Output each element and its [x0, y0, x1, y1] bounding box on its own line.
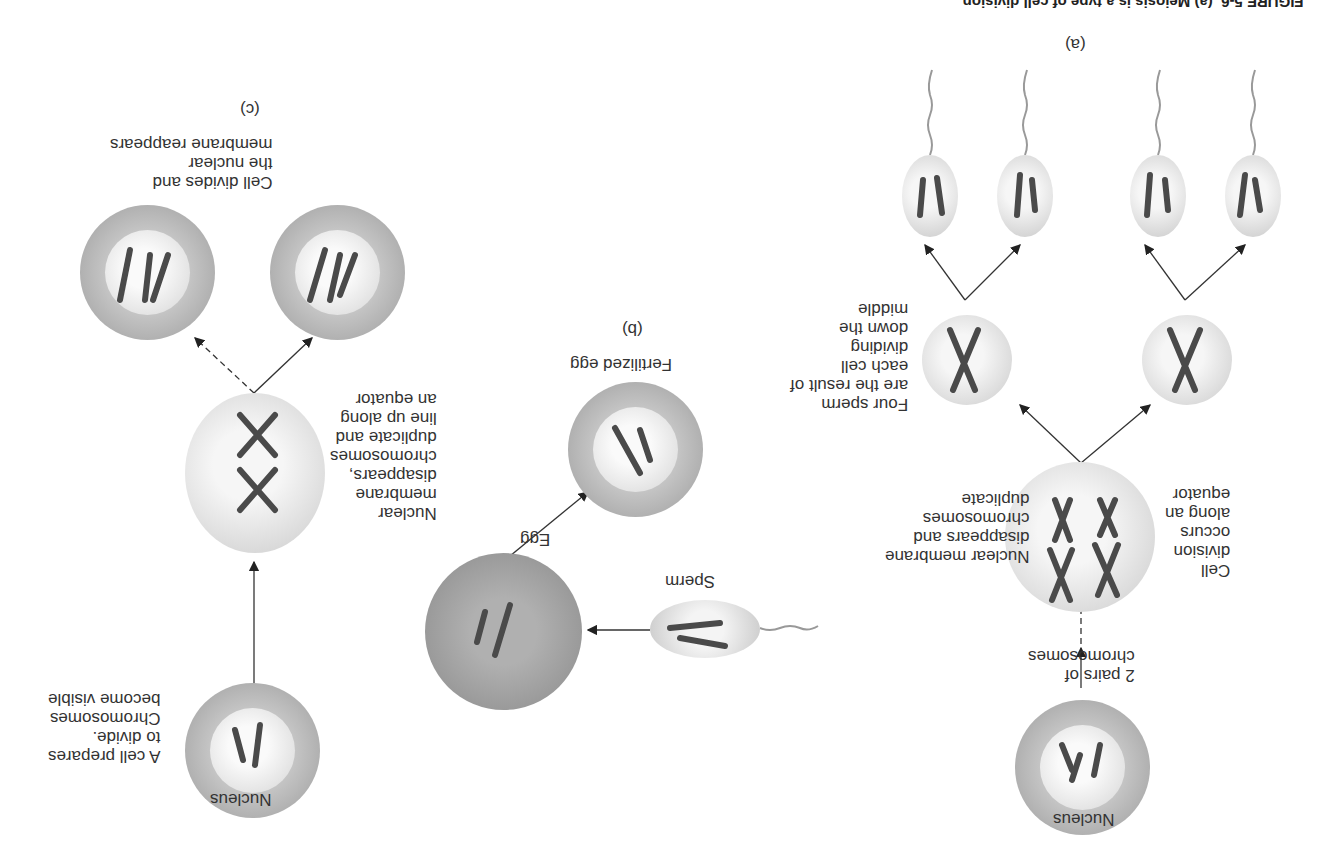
label-prepares: A cell prepares to divide. Chromosomes b… [48, 690, 160, 766]
label-c: (c) [240, 100, 260, 119]
label-membrane-a: Nuclear membrane disappears and chromoso… [885, 490, 1030, 566]
label-nucleus-a: Nucleus [1053, 810, 1114, 829]
label-pairs: 2 pairs of chromosomes [1028, 647, 1135, 685]
label-membrane-c: Nuclear membrane disappears, chromosomes… [330, 390, 437, 523]
label-sperm: Sperm [665, 572, 715, 591]
label-nucleus-c: Nucleus [210, 790, 271, 809]
label-fertilized: Fertilized egg [570, 355, 672, 374]
label-egg: Egg [520, 530, 550, 549]
label-divides: Cell divides and the nuclear membrane re… [110, 135, 273, 192]
label-b: (b) [622, 320, 643, 339]
label-four-sperm: Four sperm are the result of each cell d… [790, 300, 908, 414]
chromosomes [0, 0, 1318, 858]
label-a: (a) [1065, 35, 1086, 54]
label-cell-division: Cell division occurs along an equator [1165, 485, 1230, 580]
